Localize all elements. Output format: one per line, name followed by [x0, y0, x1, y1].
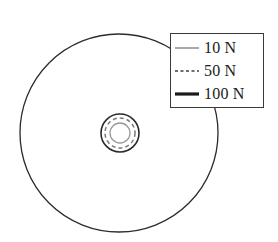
hub-outer-ring [101, 114, 139, 152]
legend-entry-100n: 100 N [174, 83, 259, 105]
legend-label-10n: 10 N [204, 40, 236, 56]
legend-entry-50n: 50 N [174, 60, 259, 82]
legend-entry-10n: 10 N [174, 37, 259, 59]
legend-label-50n: 50 N [204, 63, 236, 79]
legend-line-sample-100n [174, 88, 200, 100]
solid-thick-line-icon [174, 88, 200, 100]
force-legend: 10 N 50 N 100 N [170, 33, 264, 108]
solid-thin-line-icon [174, 42, 200, 54]
legend-line-sample-10n [174, 42, 200, 54]
dotted-line-icon [174, 65, 200, 77]
legend-label-100n: 100 N [204, 86, 245, 102]
force-contour-figure: 10 N 50 N 100 N [0, 0, 278, 242]
legend-line-sample-50n [174, 65, 200, 77]
